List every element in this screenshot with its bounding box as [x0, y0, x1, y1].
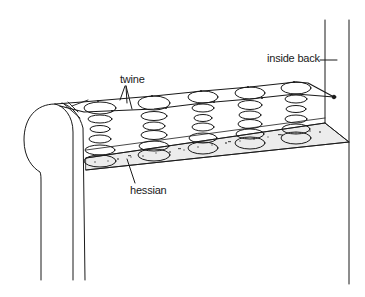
twine-rear — [55, 82, 334, 104]
upholstery-diagram — [0, 0, 365, 297]
label-twine: twine — [120, 73, 145, 85]
label-inside-back: inside back — [267, 52, 320, 64]
arm-front-edge — [55, 104, 73, 280]
label-hessian: hessian — [130, 184, 167, 196]
arm-scroll — [24, 104, 55, 280]
twine-knot-end — [332, 95, 336, 99]
